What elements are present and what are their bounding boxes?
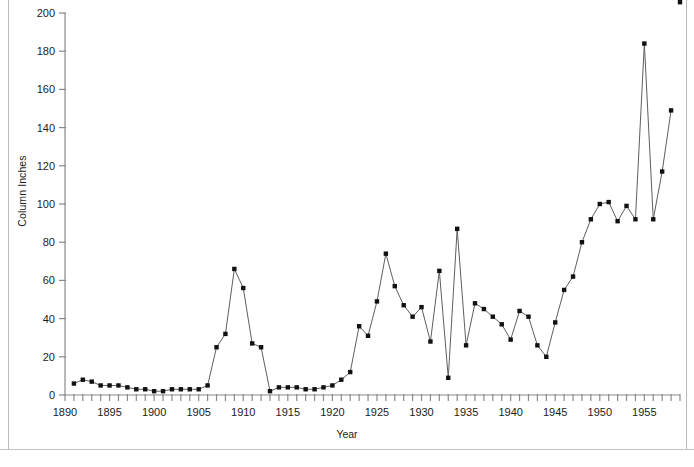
data-point	[90, 379, 94, 383]
data-point	[366, 334, 370, 338]
svg-text:1930: 1930	[409, 406, 433, 418]
svg-text:140: 140	[37, 122, 55, 134]
data-point	[464, 343, 468, 347]
data-point	[81, 378, 85, 382]
data-point	[402, 303, 406, 307]
data-point	[241, 286, 245, 290]
svg-text:1900: 1900	[142, 406, 166, 418]
data-point	[286, 385, 290, 389]
data-point	[633, 217, 637, 221]
data-point	[384, 251, 388, 255]
svg-text:1925: 1925	[365, 406, 389, 418]
data-point	[473, 301, 477, 305]
data-point	[535, 343, 539, 347]
svg-text:200: 200	[37, 7, 55, 19]
data-point	[562, 288, 566, 292]
svg-text:1945: 1945	[543, 406, 567, 418]
svg-text:1940: 1940	[498, 406, 522, 418]
data-point	[491, 314, 495, 318]
svg-text:60: 60	[43, 274, 55, 286]
svg-text:1915: 1915	[276, 406, 300, 418]
data-point	[188, 387, 192, 391]
data-point	[500, 322, 504, 326]
data-point	[589, 217, 593, 221]
data-point	[437, 269, 441, 273]
svg-text:1920: 1920	[320, 406, 344, 418]
svg-text:1955: 1955	[632, 406, 656, 418]
svg-text:160: 160	[37, 83, 55, 95]
data-series	[72, 0, 682, 393]
svg-text:120: 120	[37, 160, 55, 172]
svg-text:1890: 1890	[53, 406, 77, 418]
data-point	[669, 108, 673, 112]
chart-page: 0204060801001201401601802001890189519001…	[0, 0, 694, 467]
data-point	[455, 227, 459, 231]
data-point	[170, 387, 174, 391]
data-point	[197, 387, 201, 391]
data-point	[607, 200, 611, 204]
svg-text:100: 100	[37, 198, 55, 210]
data-point	[152, 389, 156, 393]
data-point	[678, 0, 682, 4]
data-point	[312, 387, 316, 391]
data-point	[321, 385, 325, 389]
svg-text:1950: 1950	[588, 406, 612, 418]
svg-text:180: 180	[37, 45, 55, 57]
data-point	[250, 341, 254, 345]
data-point	[482, 307, 486, 311]
data-point	[339, 378, 343, 382]
data-point	[277, 385, 281, 389]
data-point	[571, 274, 575, 278]
data-point	[598, 202, 602, 206]
svg-text:1935: 1935	[454, 406, 478, 418]
data-point	[393, 284, 397, 288]
data-point	[268, 389, 272, 393]
data-point	[98, 383, 102, 387]
data-point	[107, 383, 111, 387]
y-axis-label: Column Inches	[16, 131, 28, 251]
data-point	[517, 309, 521, 313]
data-point	[303, 387, 307, 391]
data-point	[134, 387, 138, 391]
svg-text:1895: 1895	[97, 406, 121, 418]
x-axis-label: Year	[0, 428, 694, 440]
data-point	[348, 370, 352, 374]
data-point	[330, 383, 334, 387]
data-point	[544, 355, 548, 359]
axes: 0204060801001201401601802001890189519001…	[37, 7, 680, 418]
line-chart: 0204060801001201401601802001890189519001…	[0, 0, 694, 467]
svg-text:0: 0	[49, 389, 55, 401]
data-point	[651, 217, 655, 221]
data-point	[410, 314, 414, 318]
svg-text:1905: 1905	[186, 406, 210, 418]
svg-text:1910: 1910	[231, 406, 255, 418]
data-point	[116, 383, 120, 387]
svg-text:40: 40	[43, 313, 55, 325]
data-point	[357, 324, 361, 328]
data-point	[526, 314, 530, 318]
data-point	[223, 332, 227, 336]
data-point	[660, 169, 664, 173]
data-point	[179, 387, 183, 391]
svg-text:20: 20	[43, 351, 55, 363]
data-point	[508, 337, 512, 341]
data-point	[295, 385, 299, 389]
data-point	[624, 204, 628, 208]
data-point	[72, 381, 76, 385]
data-point	[259, 345, 263, 349]
data-point	[214, 345, 218, 349]
data-point	[580, 240, 584, 244]
data-point	[125, 385, 129, 389]
data-point	[205, 383, 209, 387]
data-point	[419, 305, 423, 309]
data-point	[446, 376, 450, 380]
data-point	[232, 267, 236, 271]
data-point	[428, 339, 432, 343]
data-point	[143, 387, 147, 391]
data-point	[615, 219, 619, 223]
data-point	[161, 389, 165, 393]
data-point	[553, 320, 557, 324]
svg-text:80: 80	[43, 236, 55, 248]
data-point	[642, 41, 646, 45]
data-point	[375, 299, 379, 303]
